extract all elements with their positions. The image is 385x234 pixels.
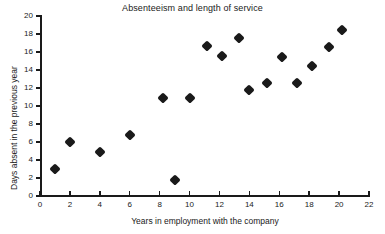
data-point: [94, 146, 105, 157]
data-point: [233, 32, 244, 43]
y-tick-label: 2: [17, 173, 33, 182]
y-tick-label: 12: [17, 83, 33, 92]
y-tick-label: 16: [17, 47, 33, 56]
x-tick-mark: [129, 191, 130, 196]
x-tick-label: 12: [209, 200, 229, 209]
y-tick-label: 4: [17, 155, 33, 164]
x-tick-label: 2: [60, 200, 80, 209]
data-point: [244, 84, 255, 95]
data-point: [307, 60, 318, 71]
y-tick-label: 20: [17, 11, 33, 20]
x-tick-label: 4: [90, 200, 110, 209]
x-tick-mark: [99, 191, 100, 196]
x-tick-label: 20: [329, 200, 349, 209]
data-point: [124, 129, 135, 140]
y-tick-mark: [36, 69, 41, 70]
data-point: [184, 92, 195, 103]
y-tick-mark: [36, 33, 41, 34]
data-point: [217, 50, 228, 61]
y-tick-mark: [36, 51, 41, 52]
scatter-chart: Absenteeism and length of service 024681…: [0, 0, 385, 234]
x-tick-mark: [368, 191, 369, 196]
data-point: [262, 77, 273, 88]
data-point: [49, 163, 60, 174]
x-tick-label: 8: [150, 200, 170, 209]
data-point: [157, 92, 168, 103]
x-tick-label: 0: [30, 200, 50, 209]
y-tick-mark: [36, 105, 41, 106]
data-point: [202, 40, 213, 51]
y-axis-title: Days absent in the previous year: [9, 66, 19, 190]
y-tick-label: 10: [17, 101, 33, 110]
y-tick-mark: [36, 141, 41, 142]
x-tick-mark: [279, 191, 280, 196]
x-tick-mark: [189, 191, 190, 196]
data-point: [292, 77, 303, 88]
x-tick-label: 22: [359, 200, 379, 209]
y-tick-mark: [36, 177, 41, 178]
data-point: [323, 41, 334, 52]
x-tick-mark: [219, 191, 220, 196]
x-tick-mark: [39, 191, 40, 196]
y-tick-mark: [36, 87, 41, 88]
x-tick-mark: [159, 191, 160, 196]
x-tick-label: 18: [299, 200, 319, 209]
x-tick-mark: [69, 191, 70, 196]
x-tick-label: 6: [120, 200, 140, 209]
chart-title: Absenteeism and length of service: [0, 3, 385, 13]
y-tick-mark: [36, 123, 41, 124]
x-tick-label: 14: [239, 200, 259, 209]
data-point: [277, 51, 288, 62]
y-tick-mark: [36, 159, 41, 160]
x-tick-mark: [249, 191, 250, 196]
data-point: [336, 24, 347, 35]
y-tick-label: 8: [17, 119, 33, 128]
y-tick-mark: [36, 15, 41, 16]
x-axis-title: Years in employment with the company: [40, 216, 370, 226]
y-tick-label: 18: [17, 29, 33, 38]
data-point: [64, 136, 75, 147]
y-tick-label: 6: [17, 137, 33, 146]
x-axis-line: [40, 195, 370, 197]
x-tick-label: 16: [269, 200, 289, 209]
y-tick-label: 0: [17, 191, 33, 200]
x-tick-label: 10: [180, 200, 200, 209]
y-tick-label: 14: [17, 65, 33, 74]
x-tick-mark: [308, 191, 309, 196]
data-point: [169, 174, 180, 185]
x-tick-mark: [338, 191, 339, 196]
